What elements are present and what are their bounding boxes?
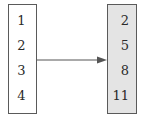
range-value: 8	[101, 63, 129, 79]
range-value: 11	[101, 88, 129, 104]
range-value: 2	[101, 13, 129, 29]
range-value: 5	[101, 38, 129, 54]
range-box: 2 5 8 11	[107, 4, 137, 114]
